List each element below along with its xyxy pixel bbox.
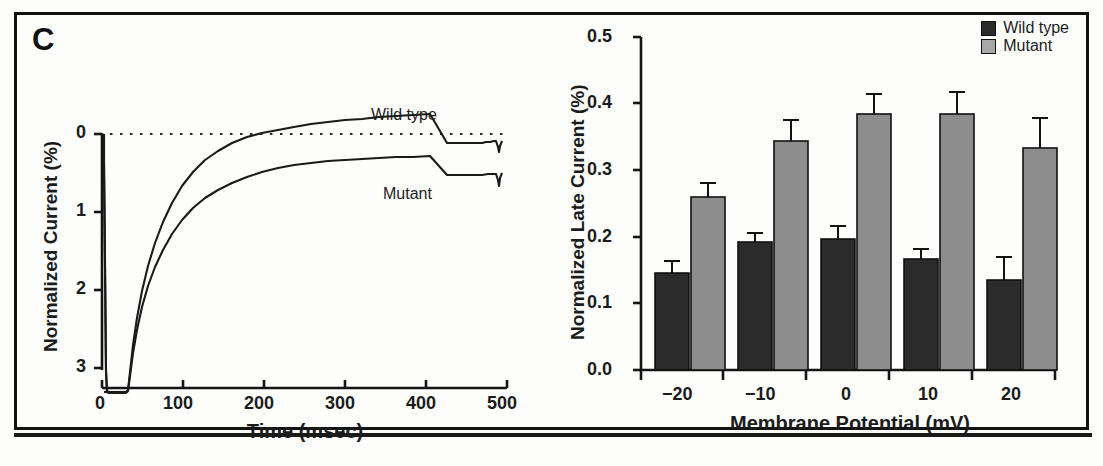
right-plot-ytick-0.1: 0.1 [587,292,612,313]
legend-item-mutant: Mutant [981,38,1069,54]
right-plot-ytick-0.3: 0.3 [587,159,612,180]
right-plot-xtick-minus20: −20 [662,384,693,405]
legend-swatch-mutant-icon [981,39,996,54]
legend-item-wild-type: Wild type [981,20,1069,36]
right-plot-xtick-minus10: −10 [745,384,776,405]
legend-label-mutant: Mutant [1003,38,1052,54]
left-plot-xtick-400: 400 [406,393,436,414]
right-plot-ytick-0.0: 0.0 [587,359,612,380]
right-plot-y-axis-title: Normalized Late Current (%) [567,85,589,340]
left-plot-xtick-0: 0 [95,393,105,414]
right-plot-ytick-0.4: 0.4 [587,92,612,113]
left-plot-ytick-3: 3 [76,356,86,377]
left-plot-ytick-2: 2 [76,278,86,299]
curve-label-mutant: Mutant [383,185,432,203]
curve-label-wild-type: Wild type [371,106,437,124]
left-plot-xtick-100: 100 [163,393,193,414]
right-plot-canvas [545,0,1103,430]
left-plot-xtick-500: 500 [487,393,517,414]
left-line-plot: Normalized Current (%) [0,0,545,430]
legend-swatch-wild-type-icon [981,21,996,36]
left-plot-ytick-0: 0 [76,122,86,143]
legend: Wild type Mutant [981,20,1069,56]
left-plot-xtick-300: 300 [325,393,355,414]
legend-label-wild-type: Wild type [1003,20,1069,36]
right-plot-xtick-0: 0 [841,384,851,405]
right-plot-ytick-0.2: 0.2 [587,226,612,247]
left-plot-y-axis-title: Normalized Current (%) [40,141,62,352]
figure-panel-c: C Normalized Current (%) [0,0,1103,466]
right-plot-x-axis-title: Membrane Potential (mV) [705,412,995,435]
right-plot-ytick-0.5: 0.5 [587,26,612,47]
right-bar-chart: Normalized Late Current (%) [545,0,1103,430]
left-plot-ytick-1: 1 [76,200,86,221]
right-plot-xtick-20: 20 [1001,384,1021,405]
right-plot-xtick-10: 10 [918,384,938,405]
left-plot-xtick-200: 200 [244,393,274,414]
left-plot-x-axis-title: Time (msec) [185,420,425,443]
